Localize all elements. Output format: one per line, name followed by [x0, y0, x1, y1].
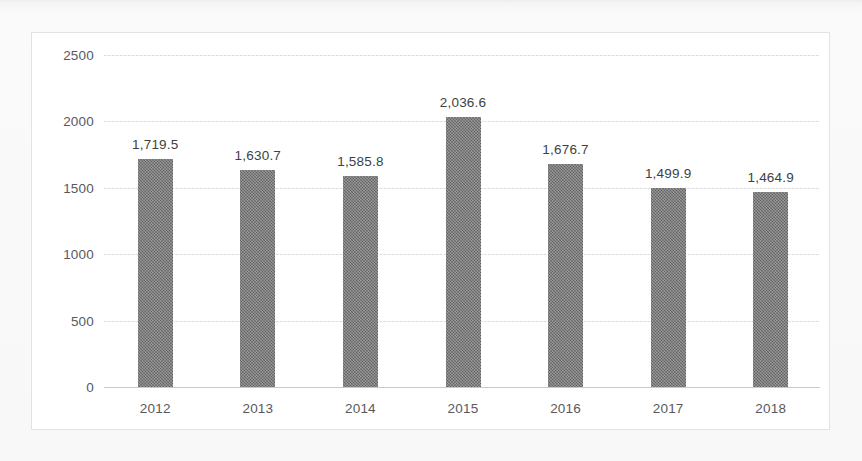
- bar-value-label-2012: 1,719.5: [110, 137, 200, 152]
- chart-frame: 05001000150020002500 1,719.51,630.71,585…: [31, 32, 830, 430]
- bar-value-label-2018: 1,464.9: [726, 170, 816, 185]
- bar-2015[interactable]: [446, 117, 481, 387]
- bar-value-label-2013: 1,630.7: [213, 148, 303, 163]
- bar-chart-plot-area: 05001000150020002500 1,719.51,630.71,585…: [32, 33, 829, 429]
- bar-2018[interactable]: [753, 192, 788, 387]
- scan-artifact: [0, 0, 862, 2]
- x-axis-category-label-2018: 2018: [726, 401, 816, 416]
- bar-value-label-2014: 1,585.8: [315, 154, 405, 169]
- bar-2017[interactable]: [651, 188, 686, 387]
- x-axis-baseline: [104, 387, 820, 388]
- bar-value-label-2015: 2,036.6: [418, 95, 508, 110]
- y-axis-tick-label-1000: 1000: [32, 247, 94, 262]
- x-axis-category-label-2015: 2015: [418, 401, 508, 416]
- y-axis-tick-label-2500: 2500: [32, 48, 94, 63]
- bar-2014[interactable]: [343, 176, 378, 387]
- y-axis-tick-label-500: 500: [32, 313, 94, 328]
- y-axis-tick-label-1500: 1500: [32, 180, 94, 195]
- bar-2016[interactable]: [548, 164, 583, 387]
- x-axis-category-label-2014: 2014: [315, 401, 405, 416]
- x-axis-category-label-2017: 2017: [623, 401, 713, 416]
- bar-2012[interactable]: [138, 159, 173, 387]
- y-axis-tick-label-2000: 2000: [32, 114, 94, 129]
- x-axis-category-label-2016: 2016: [521, 401, 611, 416]
- bar-value-label-2017: 1,499.9: [623, 166, 713, 181]
- bar-value-label-2016: 1,676.7: [521, 142, 611, 157]
- gridline-2500: [104, 55, 820, 56]
- x-axis-category-label-2013: 2013: [213, 401, 303, 416]
- x-axis-category-label-2012: 2012: [110, 401, 200, 416]
- bar-2013[interactable]: [240, 170, 275, 387]
- y-axis-tick-label-0: 0: [32, 380, 94, 395]
